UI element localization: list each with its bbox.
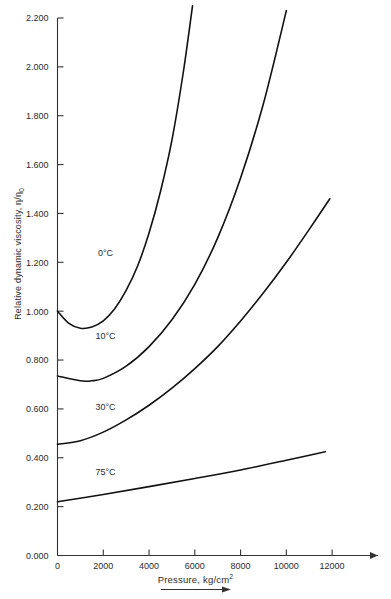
- x-tick-label: 0: [55, 561, 60, 571]
- x-tick-label: 10000: [274, 561, 299, 571]
- x-tick-label: 12000: [320, 561, 345, 571]
- y-tick-label: 1.200: [26, 258, 49, 268]
- viscosity-pressure-chart: 0.0000.2000.4000.6000.8001.0001.2001.400…: [0, 0, 391, 599]
- series-curve: [58, 11, 287, 382]
- curve-label: 10°C: [96, 331, 117, 341]
- series-curve: [58, 6, 193, 329]
- x-tick-group: 020004000600080001000012000: [55, 550, 345, 571]
- y-tick-label: 0.200: [26, 502, 49, 512]
- y-axis-title: Relative dynamic viscosity, η/η0: [13, 149, 25, 359]
- figure-container: 0.0000.2000.4000.6000.8001.0001.2001.400…: [0, 0, 391, 599]
- y-tick-label: 1.600: [26, 160, 49, 170]
- curve-label-group: 0°C10°C30°C75°C: [96, 248, 117, 477]
- x-axis-arrow-icon: [370, 552, 378, 559]
- eta-zero-subscript: 0: [18, 188, 25, 192]
- x-axis-title: Pressure, kg/cm2: [0, 573, 391, 593]
- curve-label: 75°C: [96, 467, 117, 477]
- y-tick-label: 2.200: [26, 13, 49, 23]
- eta-symbol: η: [13, 200, 23, 205]
- y-tick-label: 1.000: [26, 307, 49, 317]
- y-tick-label: 0.600: [26, 404, 49, 414]
- curve-label: 0°C: [98, 248, 114, 258]
- slash-symbol: /: [13, 197, 23, 200]
- y-tick-label: 0.000: [26, 551, 49, 561]
- eta-zero-symbol: η: [13, 192, 23, 197]
- x-axis-title-text: Pressure, kg/cm: [158, 574, 230, 585]
- x-tick-label: 6000: [185, 561, 205, 571]
- x-axis-title-superscript: 2: [229, 573, 233, 580]
- y-tick-label: 1.800: [26, 111, 49, 121]
- y-tick-label: 1.400: [26, 209, 49, 219]
- x-tick-label: 2000: [93, 561, 113, 571]
- y-tick-label: 0.800: [26, 355, 49, 365]
- y-axis-title-text: Relative dynamic viscosity,: [13, 205, 23, 320]
- y-tick-label: 0.400: [26, 453, 49, 463]
- y-tick-label: 2.000: [26, 62, 49, 72]
- x-axis-title-arrow-icon: [161, 586, 231, 593]
- x-tick-label: 4000: [139, 561, 159, 571]
- x-tick-label: 8000: [231, 561, 251, 571]
- curve-label: 30°C: [96, 402, 117, 412]
